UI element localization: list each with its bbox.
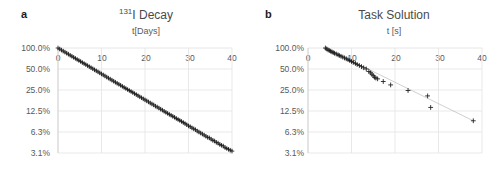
gridlines [308,48,482,153]
plot-area-a [0,0,252,172]
panel-a: a 131I Decay t[Days] 100.0% 50.0% 25.0% … [0,0,252,172]
plot-area-b [252,0,504,172]
decay-figure: a 131I Decay t[Days] 100.0% 50.0% 25.0% … [0,0,504,172]
panel-b: b Task Solution t [s] 100.0% 50.0% 25.0%… [252,0,504,172]
